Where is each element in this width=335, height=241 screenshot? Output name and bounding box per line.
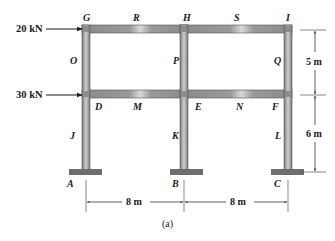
label-k: K (171, 130, 180, 141)
figure-caption: (a) (162, 218, 173, 230)
label-d: D (94, 101, 102, 112)
dim-bay-right: 8 m (230, 196, 247, 207)
load-30kn: 30 kN (16, 89, 82, 100)
supports (69, 169, 304, 175)
dimension-vertical: 5 m 6 m (300, 30, 326, 172)
label-l: L (274, 130, 281, 141)
dim-bay-left: 8 m (126, 196, 143, 207)
fixed-support-c (271, 169, 304, 175)
dim-lower-story: 6 m (306, 128, 323, 139)
load-30kn-label: 30 kN (16, 89, 43, 100)
label-a: A (66, 178, 74, 189)
label-n: N (235, 101, 244, 112)
load-20kn: 20 kN (16, 23, 82, 34)
label-m: M (132, 101, 143, 112)
label-p: P (173, 55, 180, 66)
label-i: I (285, 12, 291, 23)
column-right (284, 25, 292, 170)
dim-upper-story: 5 m (306, 56, 323, 67)
label-b: B (171, 178, 179, 189)
load-20kn-label: 20 kN (16, 23, 43, 34)
label-g: G (83, 12, 91, 23)
label-j: J (69, 130, 76, 141)
beam-mid-left (82, 90, 188, 98)
column-left (82, 25, 90, 170)
beam-mid-right (180, 90, 292, 98)
label-r: R (132, 12, 140, 23)
label-s: S (234, 12, 240, 23)
beam-top-right (180, 25, 292, 33)
label-h: H (182, 12, 192, 23)
fixed-support-a (69, 169, 102, 175)
column-middle (180, 25, 188, 170)
dimension-horizontal: 8 m 8 m (86, 180, 288, 212)
frame-diagram: 20 kN 30 kN G R H S I O P Q D M E N F J … (0, 0, 335, 241)
beam-top-left (82, 25, 188, 33)
label-f: F (271, 101, 279, 112)
label-q: Q (274, 55, 281, 66)
label-c: C (274, 178, 281, 189)
node-labels: G R H S I O P Q D M E N F J K L A B C (66, 12, 291, 189)
fixed-support-b (170, 169, 203, 175)
label-e: E (194, 101, 202, 112)
label-o: O (70, 55, 77, 66)
